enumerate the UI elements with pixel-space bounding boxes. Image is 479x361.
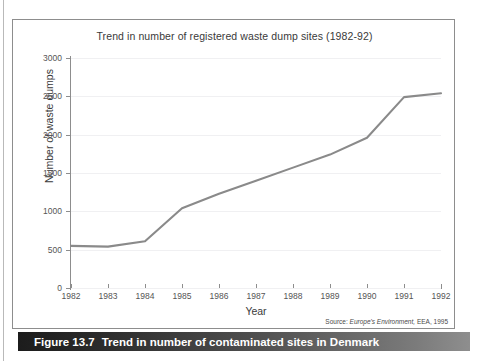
chart-panel: Trend in number of registered waste dump… (12, 19, 455, 329)
y-tick-label: 500 (18, 246, 62, 255)
x-tick-label: 1991 (384, 292, 424, 301)
x-tick-label: 1987 (236, 292, 276, 301)
source-publication: Europe's Environment, (350, 318, 416, 325)
plot-area (71, 58, 441, 288)
x-tick-label: 1992 (421, 292, 461, 301)
source-note: Source: Europe's Environment, EEA, 1995 (325, 318, 448, 325)
y-tick-label: 3000 (18, 54, 62, 63)
source-suffix: EEA, 1995 (417, 318, 448, 325)
gridline (71, 288, 441, 289)
figure-caption-text: Trend in number of contaminated sites in… (102, 336, 379, 348)
figure-caption-number: Figure 13.7 (34, 336, 95, 348)
y-axis-tick-labels: 050010001500200025003000 (13, 20, 62, 330)
data-series-line (71, 58, 441, 288)
y-tick-label: 2000 (18, 131, 62, 140)
x-tick-label: 1984 (125, 292, 165, 301)
y-tick-label: 1500 (18, 169, 62, 178)
x-tick-label: 1986 (199, 292, 239, 301)
y-tick-label: 1000 (18, 207, 62, 216)
chart-title: Trend in number of registered waste dump… (13, 30, 456, 42)
x-tick-label: 1988 (273, 292, 313, 301)
x-tick-label: 1989 (310, 292, 350, 301)
page-edge-rule (3, 0, 4, 361)
x-tick-label: 1990 (347, 292, 387, 301)
y-tick-label: 2500 (18, 92, 62, 101)
x-tick-label: 1983 (88, 292, 128, 301)
x-tick-label: 1982 (51, 292, 91, 301)
source-prefix: Source: (325, 318, 347, 325)
x-axis-label: Year (70, 305, 442, 317)
figure-caption-bar: Figure 13.7 Trend in number of contamina… (18, 332, 470, 351)
x-tick-label: 1985 (162, 292, 202, 301)
